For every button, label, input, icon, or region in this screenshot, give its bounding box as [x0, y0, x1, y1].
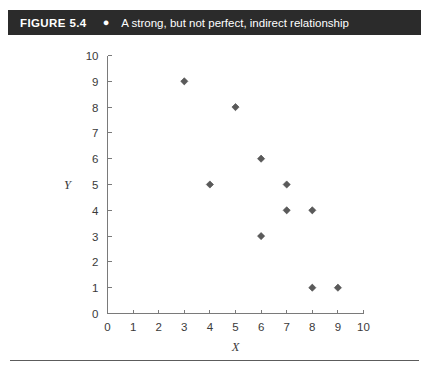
data-point-marker [258, 233, 265, 240]
y-tick-label: 1 [92, 282, 98, 294]
data-point-marker [309, 284, 316, 291]
axis-titles-group: XY [64, 178, 241, 354]
y-tick-label: 3 [92, 231, 98, 243]
x-tick-label: 8 [309, 321, 315, 333]
y-tick-label: 8 [92, 102, 98, 114]
data-point-marker [334, 284, 341, 291]
y-tick-label: 9 [92, 76, 98, 88]
x-tick-label: 1 [130, 321, 136, 333]
x-axis-title: X [231, 340, 241, 354]
data-point-marker [283, 207, 290, 214]
y-tick-label: 2 [92, 256, 98, 268]
data-point-marker [283, 181, 290, 188]
y-tick-label: 4 [92, 205, 99, 217]
plot-canvas: 012345678910012345678910 XY [0, 0, 428, 374]
x-tick-label: 2 [155, 321, 161, 333]
x-tick-label: 5 [232, 321, 238, 333]
x-tick-label: 9 [335, 321, 341, 333]
ticks-group [108, 56, 364, 314]
x-tick-label: 3 [181, 321, 187, 333]
y-tick-label: 10 [86, 50, 99, 62]
tick-labels-group: 012345678910012345678910 [86, 50, 370, 333]
y-tick-label: 6 [92, 153, 98, 165]
x-tick-label: 10 [357, 321, 370, 333]
x-tick-label: 6 [258, 321, 264, 333]
data-point-marker [206, 181, 213, 188]
data-point-marker [232, 104, 239, 111]
y-axis-title: Y [64, 178, 73, 192]
y-tick-label: 0 [92, 308, 98, 320]
x-tick-label: 7 [283, 321, 289, 333]
data-point-marker [258, 155, 265, 162]
x-tick-label: 4 [207, 321, 214, 333]
data-point-marker [181, 78, 188, 85]
bottom-divider [10, 360, 419, 361]
axes-group [108, 56, 364, 314]
data-point-marker [309, 207, 316, 214]
y-tick-label: 7 [92, 127, 98, 139]
scatter-plot: 012345678910012345678910 XY [0, 0, 428, 374]
y-tick-label: 5 [92, 179, 98, 191]
data-points-group [181, 78, 342, 292]
x-tick-label: 0 [104, 321, 110, 333]
